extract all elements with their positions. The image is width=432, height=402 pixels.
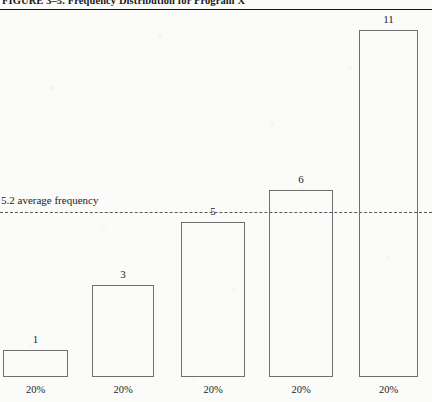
bar bbox=[359, 30, 418, 377]
bar-value-label: 3 bbox=[92, 268, 154, 280]
bar bbox=[92, 285, 154, 377]
average-frequency-dashed-line bbox=[0, 212, 432, 213]
figure-page: FIGURE 3–5. Frequency Distribution for P… bbox=[0, 0, 432, 402]
average-frequency-label: 5.2 average frequency bbox=[1, 194, 98, 206]
bar-value-label: 6 bbox=[269, 173, 333, 185]
bar-category-label: 20% bbox=[3, 384, 68, 395]
bar bbox=[3, 350, 68, 377]
caption-horizontal-rule bbox=[0, 9, 432, 10]
bar-value-label: 5 bbox=[181, 205, 245, 217]
bar-value-label: 11 bbox=[359, 13, 418, 25]
bar-category-label: 20% bbox=[181, 384, 245, 395]
bar bbox=[181, 222, 245, 377]
bar-category-label: 20% bbox=[92, 384, 154, 395]
bar bbox=[269, 190, 333, 377]
bar-category-label: 20% bbox=[359, 384, 418, 395]
bar-value-label: 1 bbox=[3, 333, 68, 345]
bar-category-label: 20% bbox=[269, 384, 333, 395]
figure-caption: FIGURE 3–5. Frequency Distribution for P… bbox=[2, 0, 245, 6]
